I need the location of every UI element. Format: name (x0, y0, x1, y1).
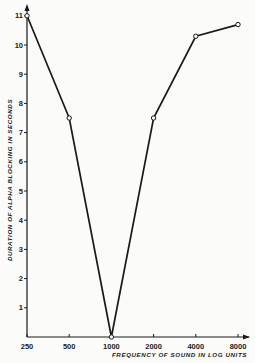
data-point-marker (151, 116, 155, 120)
data-point-marker (194, 34, 198, 38)
series-line (27, 16, 238, 337)
y-axis-ticks: 1234567891011 (15, 11, 27, 312)
data-point-marker (109, 335, 113, 339)
x-tick-label: 1000 (103, 342, 120, 351)
y-tick-label: 5 (19, 187, 23, 196)
y-tick-label: 11 (15, 11, 23, 20)
y-tick-label: 9 (19, 70, 23, 79)
data-point-marker (25, 14, 29, 18)
x-tick-label: 500 (63, 342, 76, 351)
y-tick-label: 2 (19, 274, 23, 283)
y-axis-arrow-icon (25, 4, 30, 11)
x-tick-label: 8000 (230, 342, 247, 351)
x-tick-label: 4000 (187, 342, 204, 351)
x-axis-title: FREQUENCY OF SOUND IN LOG UNITS (112, 351, 247, 358)
y-tick-label: 7 (19, 128, 23, 137)
y-tick-label: 1 (19, 303, 23, 312)
y-tick-label: 3 (19, 245, 23, 254)
x-tick-label: 250 (21, 342, 34, 351)
y-tick-label: 8 (19, 99, 23, 108)
x-axis-arrow-icon (243, 335, 250, 340)
y-tick-label: 6 (19, 157, 23, 166)
axes (25, 4, 251, 340)
y-axis-title: DURATION OF ALPHA BLOCKING IN SECONDS (6, 99, 13, 261)
data-point-marker (236, 22, 240, 26)
data-series (25, 14, 240, 340)
x-tick-label: 2000 (145, 342, 162, 351)
data-point-marker (67, 116, 71, 120)
line-chart: 1234567891011 2505001000200040008000 DUR… (0, 0, 255, 363)
y-tick-label: 4 (19, 216, 24, 225)
y-tick-label: 10 (15, 41, 23, 50)
